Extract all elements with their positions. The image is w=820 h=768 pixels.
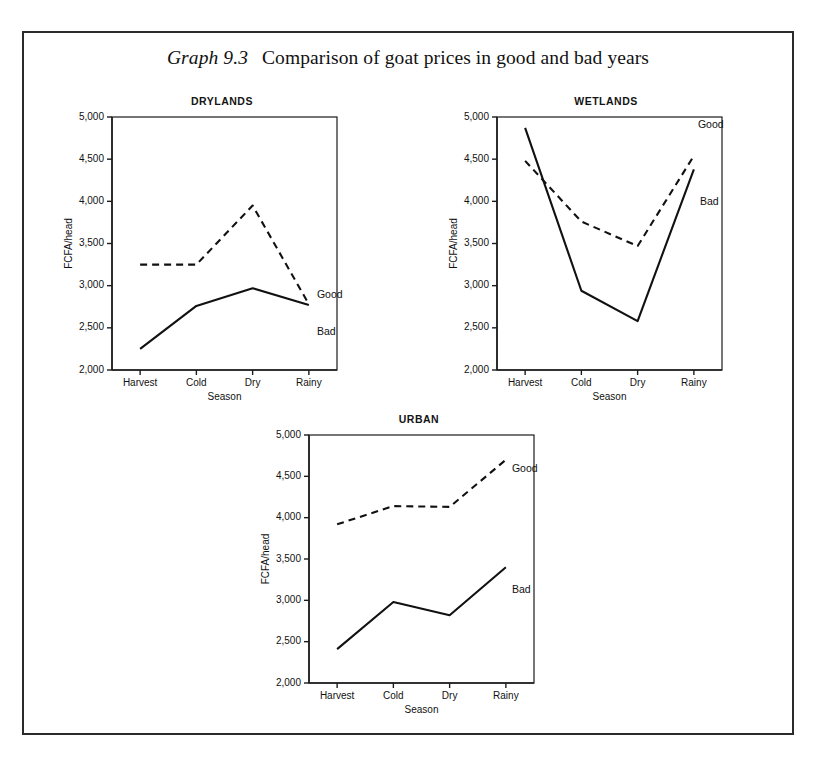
x-axis-tick-label: Cold	[186, 377, 207, 388]
y-axis-tick-label: 3,000	[79, 279, 104, 290]
x-axis-tick-label: Rainy	[296, 377, 322, 388]
y-axis-tick-label: 2,000	[464, 364, 489, 375]
caption-text: Comparison of goat prices in good and ba…	[262, 47, 649, 68]
x-axis-tick-label: Dry	[442, 690, 458, 701]
panel-drylands: DRYLANDS 2,0002,5003,0003,5004,0004,5005…	[32, 95, 412, 407]
caption-number: Graph 9.3	[167, 47, 248, 68]
y-axis-tick-label: 4,000	[79, 195, 104, 206]
y-axis-tick-label: 5,000	[79, 111, 104, 122]
panel-urban: URBAN 2,0002,5003,0003,5004,0004,5005,00…	[229, 413, 609, 731]
figure-frame: Graph 9.3Comparison of goat prices in go…	[22, 31, 794, 735]
x-axis-tick-label: Rainy	[681, 377, 707, 388]
y-axis-tick-label: 4,000	[464, 195, 489, 206]
series-line-bad	[337, 567, 506, 649]
chart-drylands: 2,0002,5003,0003,5004,0004,5005,000Harve…	[32, 95, 412, 407]
chart-wetlands: 2,0002,5003,0003,5004,0004,5005,000Harve…	[416, 95, 796, 407]
series-label-good: Good	[698, 118, 724, 130]
y-axis-tick-label: 2,500	[79, 321, 104, 332]
y-axis-tick-label: 2,000	[79, 364, 104, 375]
x-axis-tick-label: Rainy	[493, 690, 519, 701]
y-axis-tick-label: 3,000	[276, 594, 301, 605]
x-axis-title: Season	[405, 704, 439, 715]
y-axis-tick-label: 4,500	[464, 153, 489, 164]
series-line-good	[337, 460, 506, 524]
y-axis-tick-label: 5,000	[276, 429, 301, 440]
y-axis-tick-label: 3,500	[79, 237, 104, 248]
y-axis-title: FCFA/head	[63, 218, 74, 269]
series-line-bad	[140, 288, 309, 349]
y-axis-tick-label: 2,500	[464, 321, 489, 332]
x-axis-tick-label: Dry	[630, 377, 646, 388]
x-axis-tick-label: Cold	[571, 377, 592, 388]
x-axis-title: Season	[593, 391, 627, 402]
series-label-good: Good	[512, 462, 538, 474]
x-axis-tick-label: Dry	[245, 377, 261, 388]
series-label-bad: Bad	[317, 325, 336, 337]
x-axis-tick-label: Harvest	[508, 377, 543, 388]
y-axis-tick-label: 4,500	[79, 153, 104, 164]
y-axis-title: FCFA/head	[448, 218, 459, 269]
series-label-bad: Bad	[512, 583, 531, 595]
chart-urban: 2,0002,5003,0003,5004,0004,5005,000Harve…	[229, 413, 609, 731]
panel-wetlands: WETLANDS 2,0002,5003,0003,5004,0004,5005…	[416, 95, 796, 407]
y-axis-tick-label: 3,500	[464, 237, 489, 248]
figure-caption: Graph 9.3Comparison of goat prices in go…	[24, 47, 792, 69]
y-axis-tick-label: 2,000	[276, 677, 301, 688]
y-axis-title: FCFA/head	[260, 534, 271, 585]
y-axis-tick-label: 3,000	[464, 279, 489, 290]
y-axis-tick-label: 4,000	[276, 511, 301, 522]
x-axis-tick-label: Cold	[383, 690, 404, 701]
y-axis-tick-label: 3,500	[276, 553, 301, 564]
x-axis-tick-label: Harvest	[123, 377, 158, 388]
series-label-bad: Bad	[700, 195, 719, 207]
x-axis-title: Season	[208, 391, 242, 402]
series-label-good: Good	[317, 288, 343, 300]
y-axis-tick-label: 5,000	[464, 111, 489, 122]
y-axis-tick-label: 4,500	[276, 470, 301, 481]
x-axis-tick-label: Harvest	[320, 690, 355, 701]
series-line-bad	[525, 128, 694, 321]
series-line-good	[140, 206, 309, 305]
y-axis-tick-label: 2,500	[276, 635, 301, 646]
